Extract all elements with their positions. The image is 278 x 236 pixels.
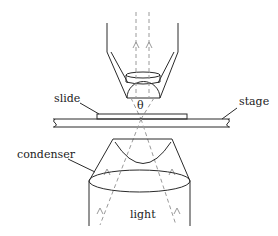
objective-lens xyxy=(107,23,178,98)
slide-leader-line xyxy=(80,103,99,114)
light-label: light xyxy=(130,208,156,221)
condenser-label: condenser xyxy=(17,148,76,161)
stage-label: stage xyxy=(239,95,269,108)
microscope-diagram: θ slide stage condenser light xyxy=(0,0,278,236)
stage-leader-line xyxy=(222,108,237,119)
slide-label: slide xyxy=(54,92,80,105)
angle-theta-label: θ xyxy=(137,99,144,112)
condenser-leader-line xyxy=(68,159,95,172)
